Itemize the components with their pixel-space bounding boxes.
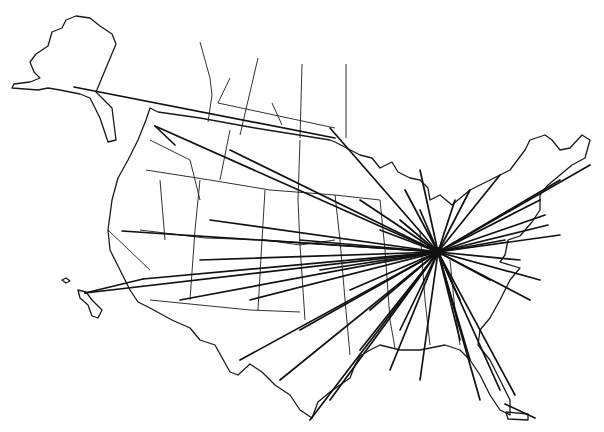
alaska-outline	[12, 16, 116, 142]
hawaii-outline	[62, 278, 102, 318]
hub-route	[330, 128, 438, 252]
route-line	[155, 126, 175, 145]
hub-route	[438, 252, 480, 400]
canada-boundary-lines	[200, 42, 346, 138]
hub-marker	[433, 247, 443, 257]
route-map	[0, 0, 604, 432]
routes-layer	[74, 87, 590, 420]
hub-route	[143, 252, 438, 279]
route-line	[85, 279, 143, 293]
